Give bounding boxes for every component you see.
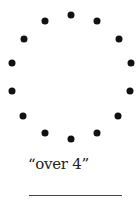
answer-blank-line	[29, 195, 122, 196]
dot	[67, 12, 74, 19]
dot	[42, 130, 49, 137]
prompt-label: “over 4”	[28, 155, 89, 173]
dot	[42, 18, 49, 25]
dot	[115, 36, 122, 43]
dot	[128, 60, 135, 67]
dot	[127, 88, 134, 95]
dot	[115, 113, 122, 120]
dot	[94, 18, 101, 25]
dot	[9, 60, 16, 67]
dot	[67, 136, 74, 143]
dot	[20, 113, 27, 120]
dot	[9, 88, 16, 95]
dot	[21, 36, 28, 43]
dot	[94, 129, 101, 136]
